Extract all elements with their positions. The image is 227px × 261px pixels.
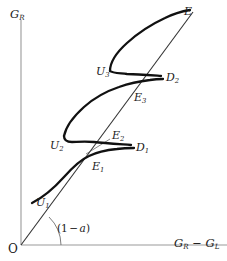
x-axis-label-left-main: G (174, 236, 183, 250)
x-axis-label-right-main: G (206, 236, 215, 250)
point-label-U2: U2 (50, 140, 64, 153)
hysteresis-curve-top (110, 10, 190, 71)
point-label-D2: D2 (166, 72, 179, 85)
point-label-D2-main: D (166, 71, 175, 84)
point-label-E3: E3 (134, 92, 146, 105)
figure-container: GR GR − GL O (1−a) U1 E1 U2 E2 D1 E3 U3 … (0, 0, 227, 261)
point-label-E-main: E (184, 5, 192, 18)
angle-label: (1−a) (57, 223, 90, 234)
point-label-E: E (184, 6, 192, 17)
point-label-D1-main: D (136, 141, 145, 154)
x-axis-label-operator: − (189, 236, 206, 250)
x-axis-label: GR − GL (174, 238, 219, 250)
hysteresis-curve (32, 148, 134, 203)
hysteresis-curve-middle (64, 79, 163, 136)
point-label-U3: U3 (96, 66, 110, 79)
point-label-E2-main: E (112, 129, 120, 142)
point-label-E1-main: E (92, 160, 100, 173)
point-label-E2: E2 (112, 130, 124, 143)
point-label-D1: D1 (136, 142, 149, 155)
y-axis-label-main: G (10, 7, 19, 21)
point-label-U2-sub: 2 (59, 145, 63, 153)
point-label-U3-main: U (96, 65, 105, 78)
point-label-E3-sub: 3 (142, 97, 146, 105)
angle-minus: − (68, 222, 80, 234)
hysteresis-curve-upper-return (110, 71, 161, 76)
point-label-U1-main: U (36, 196, 45, 209)
point-label-U3-sub: 3 (105, 71, 109, 79)
point-label-U1-sub: 1 (45, 202, 49, 210)
point-label-D2-sub: 2 (175, 77, 179, 85)
point-label-U2-main: U (50, 139, 59, 152)
point-label-E1: E1 (92, 161, 104, 174)
y-axis-label: GR (10, 9, 25, 21)
angle-one: 1 (61, 222, 68, 234)
point-label-D1-sub: 1 (145, 147, 149, 155)
angle-close-paren: ) (86, 222, 90, 234)
point-label-U1: U1 (36, 197, 50, 210)
origin-label: O (8, 243, 18, 255)
equilibrium-line (21, 12, 193, 245)
point-label-E3-main: E (134, 91, 142, 104)
x-axis-label-right-sub: L (215, 242, 220, 251)
point-label-E2-sub: 2 (120, 135, 124, 143)
y-axis-label-sub: R (19, 13, 24, 22)
point-label-E1-sub: 1 (100, 166, 104, 174)
